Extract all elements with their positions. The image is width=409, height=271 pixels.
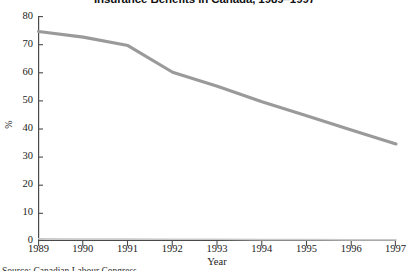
x-tick-label: 1991 [106, 243, 150, 254]
y-tick-label: 30 [7, 151, 33, 161]
chart-title: Insurance Benefits in Canada, 1989–1997 [0, 0, 409, 6]
data-line-primary [39, 31, 396, 144]
x-tick-label: 1992 [150, 243, 194, 254]
y-tick-label: 60 [7, 67, 33, 77]
x-tick-label: 1997 [373, 243, 409, 254]
plot-area [38, 16, 396, 241]
x-axis-tick-labels: 1989 1990 1991 1992 1993 1994 1995 1996 … [38, 243, 396, 257]
y-axis-tick-labels: 80 70 60 50 40 30 20 10 0 [0, 16, 33, 241]
y-tick-label: 10 [7, 207, 33, 217]
source-note: Source: Canadian Labour Congress [2, 266, 407, 271]
x-tick-label: 1994 [240, 243, 284, 254]
y-tick-label: 40 [7, 123, 33, 133]
x-tick-label: 1989 [17, 243, 61, 254]
chart-figure: Insurance Benefits in Canada, 1989–1997 … [0, 0, 409, 271]
x-tick-label: 1996 [329, 243, 373, 254]
y-tick-label: 20 [7, 179, 33, 189]
data-line-secondary [39, 239, 396, 240]
y-tick-label: 50 [7, 95, 33, 105]
plot-svg [38, 16, 396, 241]
y-tick-label: 80 [7, 11, 33, 21]
y-tick-label: 70 [7, 39, 33, 49]
x-tick-label: 1990 [61, 243, 105, 254]
x-tick-label: 1993 [195, 243, 239, 254]
x-tick-label: 1995 [285, 243, 329, 254]
